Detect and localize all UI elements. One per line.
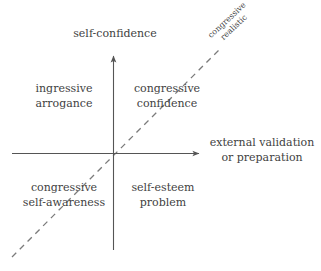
quadrant-lower-right-line-2: problem [117, 196, 209, 211]
x-axis-title-line-2: or preparation [203, 151, 321, 166]
quadrant-lower-right-line-1: self-esteem [117, 181, 209, 196]
quadrant-label-upper-left: ingressive arrogance [18, 82, 110, 111]
quadrant-diagram: self-confidence external validation or p… [0, 0, 321, 271]
quadrant-upper-left-line-1: ingressive [18, 82, 110, 97]
quadrant-upper-right-line-2: confidence [117, 97, 217, 112]
quadrant-label-lower-right: self-esteem problem [117, 181, 209, 210]
quadrant-label-lower-left: congressive self-awareness [12, 181, 116, 210]
x-axis-title-line-1: external validation [203, 136, 321, 151]
x-axis-title: external validation or preparation [203, 136, 321, 165]
y-axis-title: self-confidence [37, 27, 193, 42]
quadrant-upper-right-line-1: congressive [117, 82, 217, 97]
y-axis-title-line-1: self-confidence [37, 27, 193, 42]
dashed-diagonal-line [12, 47, 222, 257]
quadrant-lower-left-line-2: self-awareness [12, 196, 116, 211]
quadrant-label-upper-right: congressive confidence [117, 82, 217, 111]
quadrant-upper-left-line-2: arrogance [18, 97, 110, 112]
quadrant-lower-left-line-1: congressive [12, 181, 116, 196]
